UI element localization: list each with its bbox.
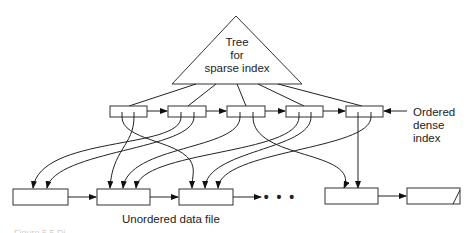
dense-index-entry [227, 106, 265, 117]
figure-caption: Figure 5.5 Di [14, 228, 66, 233]
dense-index-label-line3: index [413, 132, 441, 144]
dense-index [110, 106, 383, 117]
data-block-last [407, 188, 460, 204]
data-file [13, 188, 460, 205]
ellipsis: • • • [264, 189, 296, 205]
sparse-dense-index-diagram: Tree for sparse index Ordered dense inde… [0, 0, 475, 233]
dense-index-entry [168, 106, 206, 117]
dense-index-entry [110, 106, 147, 117]
dense-index-entry [286, 106, 323, 117]
record-pointers [33, 117, 371, 188]
data-file-label: Unordered data file [122, 213, 220, 225]
data-block [325, 188, 378, 204]
data-block [179, 189, 233, 205]
dense-index-entry [346, 106, 383, 117]
dense-index-label-line1: Ordered [413, 106, 455, 118]
dense-index-label-line2: dense [413, 119, 444, 131]
data-block [13, 189, 68, 205]
tree-pointers [129, 84, 362, 106]
tree-label-line2: for [230, 49, 244, 61]
tree-label-line1: Tree [225, 36, 248, 48]
tree-label-line3: sparse index [204, 62, 269, 74]
data-block [97, 189, 150, 205]
